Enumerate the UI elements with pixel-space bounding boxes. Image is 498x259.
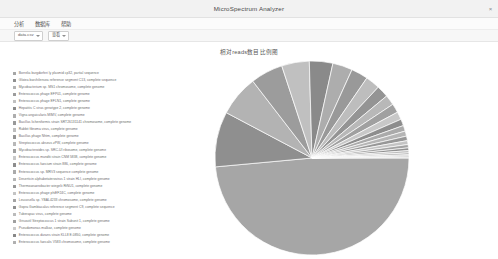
legend-item-label: Gopra Gambiacalus reference segment C9, … [19, 206, 115, 209]
menu-bar: 分析 数据库 帮助 [0, 18, 498, 30]
legend-color-swatch [13, 114, 16, 117]
legend-color-swatch [13, 79, 16, 82]
legend-item[interactable]: Pseudomonas malkoz, complete genome [13, 225, 131, 232]
content-area: 相对reads数目比例图 Borrelia burgdorferi ly pla… [0, 42, 498, 259]
legend-color-swatch [13, 170, 16, 173]
legend-color-swatch [13, 192, 16, 195]
view-select[interactable]: 查看 [48, 31, 69, 41]
legend-item[interactable]: Hepatitis C virus genotype 2, complete g… [13, 105, 131, 112]
legend-item-label: Leucosella sp. YBAL4233 chromosome, comp… [19, 199, 107, 202]
legend-color-swatch [13, 156, 16, 159]
legend-item-label: Thermoanaerobacter wiegelii RtNU1, compl… [19, 185, 103, 188]
legend-color-swatch [13, 199, 16, 202]
legend-item-label: Enterococcus mundtii strain CNM 5838, co… [19, 156, 106, 159]
close-icon[interactable]: × [487, 6, 494, 12]
legend-color-swatch [13, 227, 16, 230]
legend-color-swatch [13, 234, 16, 237]
pie-chart-svg [212, 58, 412, 258]
legend-item[interactable]: Mycobacteroides sp. SRC-UI ribosome, com… [13, 148, 131, 155]
legend-item-label: Bacillus phage Nhtm, complete genome [19, 135, 79, 138]
legend-item[interactable]: Enterococcus phage EFP01, complete genom… [13, 91, 131, 98]
legend-item-label: Pseudomonas malkoz, complete genome [19, 227, 81, 230]
legend-item[interactable]: Rabbit fibroma virus, complete genome [13, 126, 131, 133]
pie-slices [215, 61, 409, 255]
legend-item[interactable]: Deserticin alphabetaterovirus 1 strain H… [13, 176, 131, 183]
legend-color-swatch [13, 100, 16, 103]
legend-item-label: Streptococcus abseus zPW, complete genom… [19, 142, 89, 145]
legend-item[interactable]: Enterococcus phage phiEF24C, complete ge… [13, 190, 131, 197]
legend-color-swatch [13, 241, 16, 244]
chevron-down-icon [62, 35, 66, 37]
legend-item[interactable]: Thermoanaerobacter wiegelii RtNU1, compl… [13, 183, 131, 190]
legend-item-label: Bacillus licheniformis strain SRT2613114… [19, 121, 131, 124]
tool-bar: data.csv 查看 [0, 30, 498, 42]
legend-item-label: Borrelia burgdorferi ly plasmid cp32, pa… [19, 72, 99, 75]
legend-color-swatch [13, 128, 16, 131]
legend-item-label: Tuberapac virus, complete genome [19, 213, 72, 216]
legend-item[interactable]: Enterococcus mundtii strain CNM 5838, co… [13, 155, 131, 162]
legend-item[interactable]: Streptococcus abseus zPW, complete genom… [13, 140, 131, 147]
legend-item[interactable]: Enterococcus faecalis V583 chromosome, c… [13, 239, 131, 246]
legend-item-label: Grisoutil Streptococcus 1 strain Subunit… [19, 220, 110, 223]
legend-item[interactable]: Grisoutil Streptococcus 1 strain Subunit… [13, 218, 131, 225]
legend-item-label: Mycobacterium sp. MS1 chromosome, comple… [19, 86, 105, 89]
legend-item[interactable]: Tuberapac virus, complete genome [13, 211, 131, 218]
chart-legend: Borrelia burgdorferi ly plasmid cp32, pa… [13, 70, 131, 246]
legend-item[interactable]: Vigna anguicularis MIMV, complete genome [13, 112, 131, 119]
pie-chart [212, 58, 412, 258]
legend-item[interactable]: Leucosella sp. YBAL4233 chromosome, comp… [13, 197, 131, 204]
legend-color-swatch [13, 149, 16, 152]
legend-item-label: Enterococcus phage EFLN1, complete genom… [19, 100, 90, 103]
legend-color-swatch [13, 93, 16, 96]
legend-item-label: Mycobacteroides sp. SRC-UI ribosome, com… [19, 149, 106, 152]
legend-item[interactable]: Enterococcus faecium strain 886, complet… [13, 162, 131, 169]
legend-color-swatch [13, 220, 16, 223]
legend-item[interactable]: Bacillus licheniformis strain SRT2613114… [13, 119, 131, 126]
legend-color-swatch [13, 185, 16, 188]
legend-color-swatch [13, 142, 16, 145]
legend-item[interactable]: Mycobacterium sp. MS1 chromosome, comple… [13, 84, 131, 91]
legend-item[interactable]: Gopra Gambiacalus reference segment C9, … [13, 204, 131, 211]
window-title: MicroSpectrum Analyzer [214, 5, 284, 12]
chart-title: 相对reads数目比例图 [0, 48, 498, 56]
menu-item-database[interactable]: 数据库 [35, 20, 50, 27]
legend-item-label: Gloiea barchilensea reference segment C1… [19, 79, 116, 82]
legend-color-swatch [13, 72, 16, 75]
app-window: MicroSpectrum Analyzer × 分析 数据库 帮助 data.… [0, 0, 498, 259]
window-controls: × [487, 0, 494, 17]
chevron-down-icon [36, 35, 40, 37]
legend-color-swatch [13, 213, 16, 216]
title-bar: MicroSpectrum Analyzer × [0, 0, 498, 18]
menu-item-help[interactable]: 帮助 [61, 20, 71, 27]
legend-color-swatch [13, 107, 16, 110]
legend-color-swatch [13, 121, 16, 124]
legend-item-label: Enterococcus durans strain KLL8 E.0850, … [19, 234, 109, 237]
view-select-value: 查看 [52, 33, 60, 37]
legend-item-label: Enterococcus faecalis V583 chromosome, c… [19, 241, 110, 244]
file-select[interactable]: data.csv [14, 31, 43, 41]
legend-item-label: Enterococcus faecium strain 886, complet… [19, 163, 97, 166]
legend-item-label: Vigna anguicularis MIMV, complete genome [19, 114, 85, 117]
legend-item-label: Enterococcus sp. MRV3 sequence complete … [19, 171, 99, 174]
legend-color-swatch [13, 206, 16, 209]
legend-item[interactable]: Borrelia burgdorferi ly plasmid cp32, pa… [13, 70, 131, 77]
file-select-value: data.csv [18, 33, 34, 37]
menu-item-analysis[interactable]: 分析 [14, 20, 24, 27]
legend-item-label: Hepatitis C virus genotype 2, complete g… [19, 107, 90, 110]
pie-slice[interactable] [215, 158, 409, 255]
legend-item[interactable]: Gloiea barchilensea reference segment C1… [13, 77, 131, 84]
legend-item-label: Deserticin alphabetaterovirus 1 strain H… [19, 178, 110, 181]
legend-color-swatch [13, 86, 16, 89]
legend-item-label: Enterococcus phage phiEF24C, complete ge… [19, 192, 95, 195]
legend-color-swatch [13, 135, 16, 138]
legend-color-swatch [13, 178, 16, 181]
legend-item[interactable]: Enterococcus phage EFLN1, complete genom… [13, 98, 131, 105]
legend-item-label: Rabbit fibroma virus, complete genome [19, 128, 78, 131]
legend-item[interactable]: Bacillus phage Nhtm, complete genome [13, 133, 131, 140]
legend-item[interactable]: Enterococcus sp. MRV3 sequence complete … [13, 169, 131, 176]
legend-item-label: Enterococcus phage EFP01, complete genom… [19, 93, 90, 96]
legend-color-swatch [13, 163, 16, 166]
legend-item[interactable]: Enterococcus durans strain KLL8 E.0850, … [13, 232, 131, 239]
